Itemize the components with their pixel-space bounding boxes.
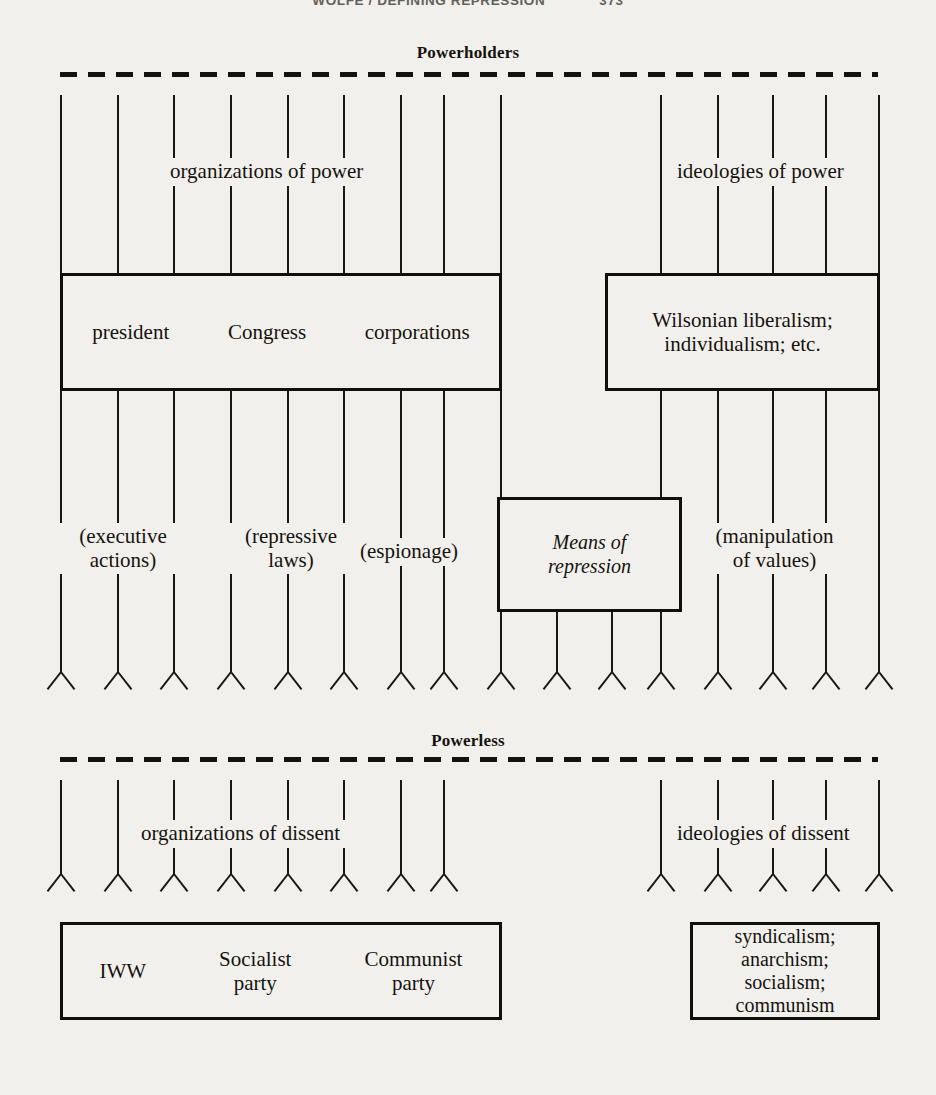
manipulation-of-values-label: (manipulation of values) [697,523,852,574]
executive-actions-label: (executive actions) [60,523,186,574]
flow-line [500,391,502,497]
running-head-title: WOLFE / DEFINING REPRESSION [312,0,545,8]
box-line-anarchism: anarchism; [734,948,835,971]
flow-line [443,391,445,672]
flow-line [400,95,402,273]
ideologies-of-power-label: ideologies of power [672,158,849,186]
flow-arrow-icon [599,672,625,702]
box-line-communism: communism [734,994,835,1017]
flow-line [443,780,445,874]
manipulation-line1: (manipulation [702,525,847,549]
flow-arrow-icon [218,874,244,904]
repressive-laws-line2: laws) [231,549,351,573]
flow-arrow-icon [705,874,731,904]
espionage-label: (espionage) [355,538,463,566]
manipulation-line2: of values) [702,549,847,573]
flow-arrow-icon [275,874,301,904]
running-head: WOLFE / DEFINING REPRESSION373 [0,0,936,8]
flow-arrow-icon [648,672,674,702]
flow-arrow-icon [218,672,244,702]
flow-arrow-icon [760,672,786,702]
flow-line [500,612,502,672]
flow-line [660,612,662,672]
flow-line [443,95,445,273]
flow-arrow-icon [331,874,357,904]
powerholders-divider [60,72,878,77]
socialist-line1: Socialist [219,947,291,971]
powerholders-label: Powerholders [0,43,936,63]
flow-line [878,780,880,874]
flow-arrow-icon [813,672,839,702]
means-of-repression-box[interactable]: Means of repression [497,497,682,612]
flow-arrow-icon [866,874,892,904]
flow-arrow-icon [161,874,187,904]
box-line-individualism: individualism; etc. [652,332,833,356]
flow-line [400,391,402,672]
box-item-iww: IWW [99,959,146,983]
box-item-president: president [92,320,169,344]
flow-line [60,780,62,874]
flow-arrow-icon [48,874,74,904]
powerless-ideologies-box[interactable]: syndicalism; anarchism; socialism; commu… [690,922,880,1020]
flow-line [660,391,662,497]
page-number: 373 [599,0,623,8]
flow-arrow-icon [105,874,131,904]
box-line-syndicalism: syndicalism; [734,925,835,948]
flow-arrow-icon [760,874,786,904]
repression-flow-diagram: WOLFE / DEFINING REPRESSION373 Powerhold… [0,0,936,1095]
flow-line [660,780,662,874]
flow-arrow-icon [161,672,187,702]
flow-arrow-icon [48,672,74,702]
flow-arrow-icon [388,672,414,702]
executive-actions-line1: (executive [65,525,181,549]
flow-arrow-icon [275,672,301,702]
powerholder-organizations-box[interactable]: president Congress corporations [60,273,502,391]
flow-arrow-icon [431,874,457,904]
socialist-line2: party [219,971,291,995]
flow-line [611,612,613,672]
ideologies-of-dissent-label: ideologies of dissent [672,820,855,848]
means-line2: repression [548,555,631,578]
flow-line [117,95,119,273]
powerless-divider [60,757,878,762]
flow-line [556,612,558,672]
executive-actions-line2: actions) [65,549,181,573]
powerless-label: Powerless [0,731,936,751]
flow-arrow-icon [648,874,674,904]
flow-line [500,95,502,273]
flow-arrow-icon [544,672,570,702]
repressive-laws-label: (repressive laws) [226,523,356,574]
box-item-communist-party: Communist party [364,947,462,996]
flow-arrow-icon [705,672,731,702]
communist-line2: party [364,971,462,995]
means-line1: Means of [548,531,631,554]
box-item-socialist-party: Socialist party [219,947,291,996]
repressive-laws-line1: (repressive [231,525,351,549]
flow-arrow-icon [813,874,839,904]
powerholder-ideologies-box[interactable]: Wilsonian liberalism; individualism; etc… [605,273,880,391]
flow-arrow-icon [331,672,357,702]
organizations-of-power-label: organizations of power [165,158,368,186]
box-item-congress: Congress [228,320,306,344]
box-line-socialism: socialism; [734,971,835,994]
flow-line [400,780,402,874]
flow-line [60,95,62,273]
communist-line1: Communist [364,947,462,971]
flow-line [117,780,119,874]
flow-line [660,95,662,273]
flow-line [878,391,880,672]
flow-arrow-icon [488,672,514,702]
box-line-wilsonian: Wilsonian liberalism; [652,308,833,332]
box-item-corporations: corporations [365,320,470,344]
flow-arrow-icon [431,672,457,702]
powerless-organizations-box[interactable]: IWW Socialist party Communist party [60,922,502,1020]
flow-arrow-icon [105,672,131,702]
flow-arrow-icon [388,874,414,904]
flow-arrow-icon [866,672,892,702]
organizations-of-dissent-label: organizations of dissent [136,820,345,848]
flow-line [878,95,880,273]
